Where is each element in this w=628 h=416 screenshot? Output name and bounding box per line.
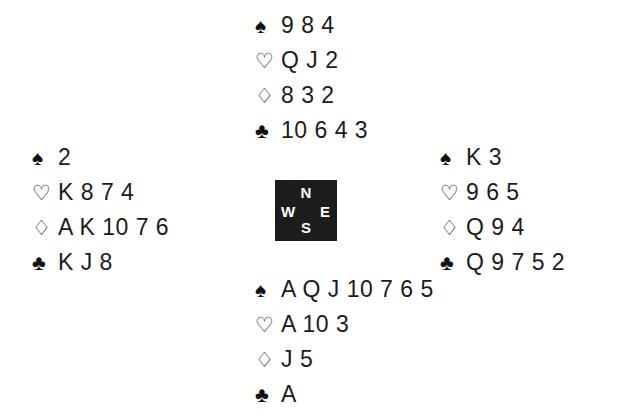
hand-south-spade-row: ♠ A Q J 10 7 6 5: [255, 272, 434, 307]
hand-west-spades: 2: [58, 146, 71, 169]
hand-east-hearts: 9 6 5: [466, 181, 520, 204]
hand-west-club-row: ♣ K J 8: [32, 245, 169, 280]
heart-icon: ♡: [255, 314, 281, 335]
hand-east: ♠ K 3 ♡ 9 6 5 ♢ Q 9 4 ♣ Q 9 7 5 2: [440, 140, 565, 280]
hand-south-spades: A Q J 10 7 6 5: [281, 278, 434, 301]
diamond-icon: ♢: [440, 217, 466, 238]
hand-south-club-row: ♣ A: [255, 377, 434, 412]
hand-west-clubs: K J 8: [58, 251, 113, 274]
hand-east-diamond-row: ♢ Q 9 4: [440, 210, 565, 245]
hand-west: ♠ 2 ♡ K 8 7 4 ♢ A K 10 7 6 ♣ K J 8: [32, 140, 169, 280]
compass-east-label: E: [320, 203, 330, 218]
hand-south-hearts: A 10 3: [281, 313, 349, 336]
spade-icon: ♠: [255, 279, 281, 300]
hand-west-spade-row: ♠ 2: [32, 140, 169, 175]
spade-icon: ♠: [255, 15, 281, 36]
club-icon: ♣: [255, 384, 281, 405]
hand-east-diamonds: Q 9 4: [466, 216, 525, 239]
hand-north-heart-row: ♡ Q J 2: [255, 43, 368, 78]
hand-east-heart-row: ♡ 9 6 5: [440, 175, 565, 210]
diamond-icon: ♢: [255, 349, 281, 370]
hand-east-spades: K 3: [466, 146, 502, 169]
hand-east-clubs: Q 9 7 5 2: [466, 251, 565, 274]
hand-north-diamonds: 8 3 2: [281, 84, 335, 107]
spade-icon: ♠: [32, 147, 58, 168]
hand-west-diamonds: A K 10 7 6: [58, 216, 169, 239]
hand-north-hearts: Q J 2: [281, 49, 338, 72]
heart-icon: ♡: [32, 182, 58, 203]
heart-icon: ♡: [440, 182, 466, 203]
hand-south-diamonds: J 5: [281, 348, 313, 371]
hand-north-diamond-row: ♢ 8 3 2: [255, 78, 368, 113]
compass-north-label: N: [301, 185, 312, 200]
diamond-icon: ♢: [32, 217, 58, 238]
hand-north: ♠ 9 8 4 ♡ Q J 2 ♢ 8 3 2 ♣ 10 6 4 3: [255, 8, 368, 148]
hand-west-diamond-row: ♢ A K 10 7 6: [32, 210, 169, 245]
bridge-deal-diagram: ♠ 9 8 4 ♡ Q J 2 ♢ 8 3 2 ♣ 10 6 4 3 ♠ 2 ♡…: [0, 0, 628, 416]
hand-south-clubs: A: [281, 383, 297, 406]
spade-icon: ♠: [440, 147, 466, 168]
diamond-icon: ♢: [255, 85, 281, 106]
compass-box: N W E S: [275, 180, 337, 241]
compass-south-label: S: [301, 220, 311, 235]
heart-icon: ♡: [255, 50, 281, 71]
hand-east-club-row: ♣ Q 9 7 5 2: [440, 245, 565, 280]
compass-west-label: W: [281, 203, 295, 218]
hand-east-spade-row: ♠ K 3: [440, 140, 565, 175]
club-icon: ♣: [32, 252, 58, 273]
club-icon: ♣: [440, 252, 466, 273]
hand-south-diamond-row: ♢ J 5: [255, 342, 434, 377]
hand-south: ♠ A Q J 10 7 6 5 ♡ A 10 3 ♢ J 5 ♣ A: [255, 272, 434, 412]
club-icon: ♣: [255, 120, 281, 141]
hand-south-heart-row: ♡ A 10 3: [255, 307, 434, 342]
hand-north-clubs: 10 6 4 3: [281, 119, 368, 142]
hand-north-club-row: ♣ 10 6 4 3: [255, 113, 368, 148]
hand-west-hearts: K 8 7 4: [58, 181, 134, 204]
hand-north-spade-row: ♠ 9 8 4: [255, 8, 368, 43]
hand-north-spades: 9 8 4: [281, 14, 335, 37]
hand-west-heart-row: ♡ K 8 7 4: [32, 175, 169, 210]
